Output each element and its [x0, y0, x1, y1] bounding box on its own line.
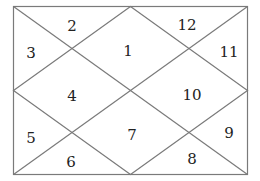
house-11-label: 11 [219, 43, 238, 61]
house-7-label: 7 [127, 126, 137, 144]
house-6-label: 6 [66, 153, 76, 171]
house-9-label: 9 [224, 124, 234, 142]
house-12-label: 12 [177, 16, 196, 34]
house-1-label: 1 [123, 42, 133, 60]
house-8-label: 8 [187, 150, 197, 168]
chart-lines [14, 7, 248, 175]
house-10-label: 10 [182, 86, 201, 104]
kundli-chart: 1 2 3 4 5 6 7 8 9 10 11 12 [0, 0, 260, 181]
house-2-label: 2 [67, 17, 77, 35]
house-4-label: 4 [67, 87, 77, 105]
house-5-label: 5 [26, 129, 36, 147]
house-labels: 1 2 3 4 5 6 7 8 9 10 11 12 [26, 16, 238, 171]
house-3-label: 3 [26, 44, 36, 62]
